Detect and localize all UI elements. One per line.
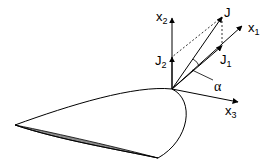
label-x2: x2 [156, 9, 168, 26]
label-x3: x3 [225, 103, 237, 120]
airfoil-upper-surface [15, 88, 172, 125]
airfoil-underside-shade [15, 125, 158, 158]
label-j: J [224, 5, 231, 20]
label-j1: J1 [220, 52, 232, 69]
x3-axis [172, 89, 238, 102]
airfoil-leading-edge [158, 89, 186, 158]
alpha-leader-line [192, 70, 213, 80]
label-alpha: α [214, 79, 222, 94]
label-j2: J2 [155, 53, 167, 70]
label-x1: x1 [248, 20, 260, 37]
airfoil-vector-diagram: x2 J x1 J2 J1 α x3 [0, 0, 275, 166]
airfoil [15, 88, 186, 158]
